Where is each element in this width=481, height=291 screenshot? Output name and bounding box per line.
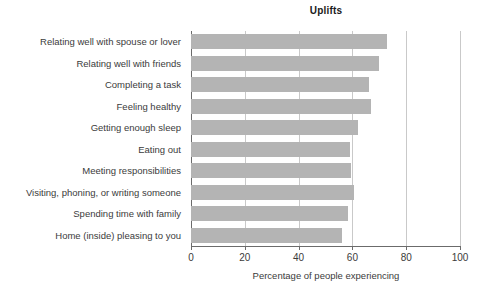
x-tick-mark [245, 246, 246, 250]
x-tick-mark [352, 246, 353, 250]
x-axis-line [191, 246, 461, 247]
y-axis-label: Feeling healthy [0, 99, 186, 114]
y-axis-label: Getting enough sleep [0, 120, 186, 135]
x-tick-label: 20 [225, 252, 265, 263]
bar [191, 206, 348, 221]
bar [191, 99, 371, 114]
bar-row [191, 182, 460, 204]
y-axis-label: Eating out [0, 142, 186, 157]
y-axis-label: Relating well with friends [0, 56, 186, 71]
bar [191, 163, 351, 178]
x-axis-title: Percentage of people experiencing [191, 270, 461, 281]
x-tick-mark [191, 246, 192, 250]
bar [191, 77, 369, 92]
gridline-100 [460, 31, 461, 246]
bar [191, 142, 350, 157]
bar-row [191, 160, 460, 182]
x-tick-mark [406, 246, 407, 250]
bar [191, 56, 379, 71]
bar-row [191, 53, 460, 75]
bar-row [191, 203, 460, 225]
x-tick-label: 100 [440, 252, 480, 263]
x-tick-label: 0 [171, 252, 211, 263]
y-axis-label: Relating well with spouse or lover [0, 34, 186, 49]
bar [191, 120, 358, 135]
bar [191, 185, 354, 200]
plot-area [191, 31, 460, 246]
x-tick-label: 40 [279, 252, 319, 263]
y-axis-label: Home (inside) pleasing to you [0, 228, 186, 243]
bar-row [191, 139, 460, 161]
bar-row [191, 96, 460, 118]
y-axis-category-labels: Relating well with spouse or loverRelati… [0, 31, 186, 246]
x-tick-label: 80 [386, 252, 426, 263]
x-tick-mark [299, 246, 300, 250]
y-axis-label: Visiting, phoning, or writing someone [0, 185, 186, 200]
y-axis-label: Spending time with family [0, 206, 186, 221]
bar [191, 228, 342, 243]
y-axis-label: Meeting responsibilities [0, 163, 186, 178]
bar-row [191, 117, 460, 139]
bar-row [191, 74, 460, 96]
bar-row [191, 225, 460, 247]
bar-row [191, 31, 460, 53]
chart-title: Uplifts [191, 5, 461, 16]
y-axis-label: Completing a task [0, 77, 186, 92]
x-tick-label: 60 [332, 252, 372, 263]
bar-chart: Uplifts Relating well with spouse or lov… [0, 0, 481, 291]
x-tick-mark [460, 246, 461, 250]
bar [191, 34, 387, 49]
